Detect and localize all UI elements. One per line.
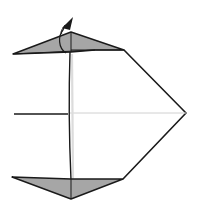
vertical-edge	[69, 52, 73, 180]
origami-diagram	[0, 0, 203, 217]
center-crease	[14, 113, 186, 114]
top-flap	[13, 32, 124, 54]
bottom-flap	[12, 177, 123, 199]
body-outline	[123, 50, 186, 179]
